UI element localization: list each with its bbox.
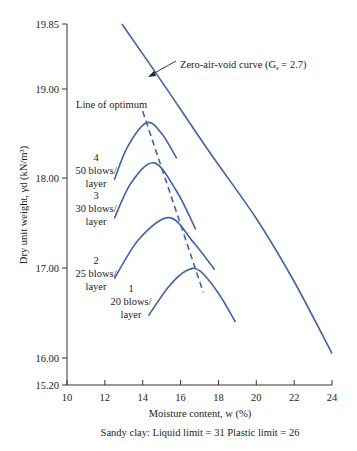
y-tick-label: 18.00	[35, 173, 59, 184]
zav-label: Zero-air-void curve (Gs = 2.7)	[180, 59, 307, 72]
x-tick-label: 10	[62, 392, 73, 403]
curve-1-label-number: 1	[128, 283, 133, 294]
curve-3-label-number: 3	[93, 190, 98, 201]
line-of-optimum-label: Line of optimum	[76, 99, 147, 110]
x-tick-label: 12	[100, 392, 111, 403]
x-tick-label: 22	[289, 392, 300, 403]
y-tick-label: 19.85	[35, 19, 59, 30]
y-tick-label: 19.00	[35, 84, 59, 95]
y-axis-label: Dry unit weight, γd (kN/m³)	[18, 145, 30, 264]
curve-4-label-number: 4	[93, 152, 99, 163]
y-tick-label: 16.00	[35, 353, 59, 364]
curve-4-label-blows: 50 blows/	[75, 165, 116, 176]
x-tick-label: 20	[251, 392, 262, 403]
series-1-20-blows-layer	[148, 268, 235, 322]
x-tick-label: 16	[175, 392, 186, 403]
curve-3-label-blows: 30 blows/	[75, 203, 116, 214]
caption: Sandy clay: Liquid limit = 31 Plastic li…	[101, 427, 300, 438]
x-tick-label: 14	[137, 392, 148, 403]
x-tick-label: 18	[213, 392, 224, 403]
curve-4-label-layer: layer	[86, 178, 107, 189]
series-line-of-optimum	[143, 111, 204, 292]
curve-1-label-layer: layer	[121, 309, 142, 320]
curve-2-label-number: 2	[93, 255, 98, 266]
curve-2-label-layer: layer	[86, 281, 107, 292]
y-tick-label: 17.00	[35, 263, 59, 274]
series-3-30-blows-layer	[114, 163, 195, 230]
series-2-25-blows-layer	[114, 218, 214, 279]
y-tick-label: 15.20	[35, 380, 59, 391]
x-tick-label: 24	[327, 392, 338, 403]
series-4-50-blows-layer	[114, 122, 176, 179]
x-axis-label: Moisture content, w (%)	[149, 408, 252, 420]
curve-1-label-blows: 20 blows/	[110, 296, 151, 307]
chart: 101214161820222415.2016.0017.0018.0019.0…	[0, 0, 357, 451]
curve-3-label-layer: layer	[86, 216, 107, 227]
annotations: Zero-air-void curve (Gs = 2.7) Line of o…	[75, 59, 307, 320]
curve-2-label-blows: 25 blows/	[75, 268, 116, 279]
